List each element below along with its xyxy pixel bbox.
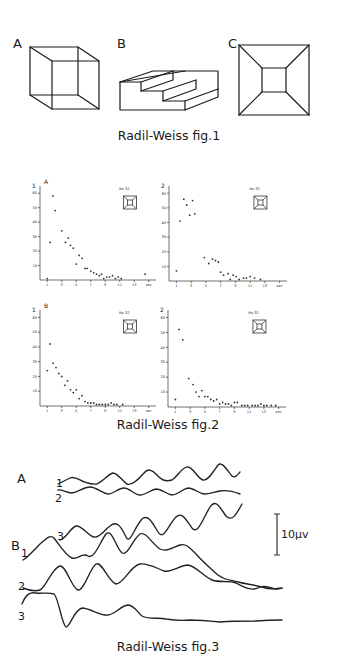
x-tick-label: 13 — [132, 409, 137, 413]
data-point — [116, 404, 118, 406]
trace-a1 — [58, 464, 240, 484]
fig1-caption: Radil-Weiss fig.1 — [118, 128, 220, 143]
data-point — [232, 274, 234, 276]
x-tick-label: 7 — [218, 410, 220, 414]
data-point — [87, 402, 89, 404]
y-tick-label: 40 — [32, 220, 37, 224]
x-tick-label: 3 — [61, 409, 63, 413]
data-point — [64, 384, 66, 386]
data-point — [55, 367, 57, 369]
subject-label: No 32 — [119, 311, 130, 315]
data-point — [101, 404, 103, 406]
data-point — [204, 257, 206, 259]
data-point — [93, 272, 95, 274]
fig1-panel-c-label: C — [228, 36, 237, 51]
x-tick-label: 11 — [117, 409, 122, 413]
y-tick-label: 50 — [32, 206, 37, 210]
data-point — [93, 402, 95, 404]
data-point — [216, 399, 218, 401]
data-point — [52, 195, 54, 197]
data-point — [186, 204, 188, 206]
trace-a2 — [58, 487, 240, 495]
x-tick-label: 11 — [248, 284, 253, 288]
data-point — [208, 263, 210, 265]
y-tick-label: 10 — [161, 265, 166, 269]
data-point — [254, 405, 256, 407]
x-tick-label: 7 — [90, 283, 92, 287]
x-tick-label: 7 — [219, 284, 221, 288]
x-tick-label: sec — [277, 284, 283, 288]
data-point — [78, 255, 80, 257]
data-point — [275, 405, 277, 407]
fig2: 102030405060135791113sec1ANo 32102030405… — [32, 178, 287, 414]
data-point — [260, 279, 262, 281]
data-point — [244, 405, 246, 407]
data-point — [70, 389, 72, 391]
trace-b3 — [22, 593, 282, 627]
data-point — [81, 257, 83, 259]
data-point — [241, 405, 243, 407]
trace-a2-label: 2 — [55, 492, 62, 505]
data-point — [61, 376, 63, 378]
data-point — [212, 258, 214, 260]
data-point — [228, 403, 230, 405]
fig1: A B C Radil-Weiss fig.1 — [13, 36, 309, 143]
data-point — [99, 275, 101, 277]
fig3-caption: Radil-Weiss fig.3 — [117, 639, 219, 654]
y-tick-label: 40 — [161, 221, 166, 225]
x-tick-label: 5 — [205, 284, 207, 288]
panel-label: A — [44, 178, 49, 185]
data-point — [70, 244, 72, 246]
x-tick-label: 1 — [46, 283, 48, 287]
data-point — [198, 396, 200, 398]
data-point — [81, 395, 83, 397]
panel-label: B — [44, 302, 48, 309]
data-point — [65, 242, 67, 244]
trace-b1-label: 1 — [21, 547, 28, 560]
data-point — [104, 404, 106, 406]
stimulus-pyramid-icon — [124, 320, 137, 333]
truncated-pyramid-icon — [239, 45, 309, 115]
data-point — [220, 271, 222, 273]
data-point — [210, 399, 212, 401]
trace-b3-label: 3 — [18, 610, 25, 623]
y-axis-label: 2 — [160, 306, 164, 313]
fig3: A 1 2 B 3 1 2 3 10μv Radil-Weiss fig.3 — [11, 464, 309, 654]
data-point — [75, 263, 77, 265]
data-point — [218, 261, 220, 263]
scatter-panel-3: 102030405060135791113sec1BNo 32 — [32, 302, 156, 413]
stimulus-pyramid-icon — [254, 196, 267, 209]
subject-label: No 32 — [119, 187, 130, 191]
data-point — [188, 378, 190, 380]
x-tick-label: 3 — [189, 410, 191, 414]
data-point — [115, 278, 117, 280]
x-tick-label: 7 — [90, 409, 92, 413]
data-point — [176, 270, 178, 272]
x-tick-label: 13 — [263, 284, 268, 288]
data-point — [120, 278, 122, 280]
x-tick-label: 5 — [75, 409, 77, 413]
data-point — [183, 198, 185, 200]
data-point — [46, 278, 48, 280]
data-point — [222, 402, 224, 404]
data-point — [96, 273, 98, 275]
data-point — [103, 278, 105, 280]
x-tick-label: 3 — [190, 284, 192, 288]
y-tick-label: 20 — [32, 375, 37, 379]
x-tick-label: sec — [276, 410, 282, 414]
data-point — [243, 277, 245, 279]
data-point — [67, 237, 69, 239]
y-tick-label: 20 — [32, 249, 37, 253]
trace-b2-label: 2 — [18, 580, 25, 593]
data-point — [260, 403, 262, 405]
x-tick-label: 11 — [247, 410, 252, 414]
data-point — [247, 405, 249, 407]
y-tick-label: 50 — [161, 206, 166, 210]
y-tick-label: 60 — [161, 192, 166, 196]
scale-bar-icon — [274, 514, 280, 555]
subject-label: No 32 — [248, 311, 259, 315]
y-tick-label: 20 — [160, 375, 165, 379]
data-point — [234, 402, 236, 404]
fig3-group-a-label: A — [17, 471, 26, 486]
y-axis-label: 1 — [32, 306, 36, 313]
